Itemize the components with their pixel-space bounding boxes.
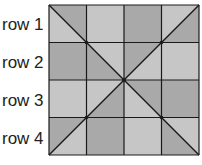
intersection-dot <box>160 116 164 120</box>
cell-r2-c1 <box>49 43 87 81</box>
cell-r4-c2 <box>87 118 125 156</box>
cell-r4-c3 <box>124 118 162 156</box>
cell-r1-c3 <box>124 5 162 43</box>
cell-r1-c2 <box>87 5 125 43</box>
cell-r2-c4 <box>162 43 200 81</box>
intersection-dot <box>85 116 89 120</box>
intersection-dot <box>122 78 126 82</box>
shaded-grid-diagram <box>0 0 202 165</box>
cell-r3-c1 <box>49 80 87 118</box>
intersection-dot <box>160 41 164 45</box>
cell-r3-c4 <box>162 80 200 118</box>
intersection-dot <box>85 41 89 45</box>
